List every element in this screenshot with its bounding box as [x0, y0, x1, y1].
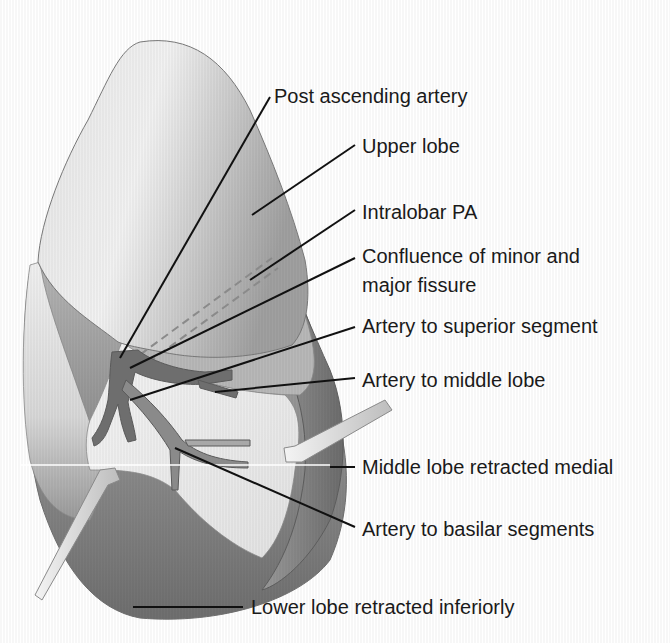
label-post-ascending-artery: Post ascending artery — [274, 84, 467, 109]
upper-lobe — [38, 41, 308, 358]
label-upper-lobe: Upper lobe — [362, 134, 460, 159]
label-artery-middle-lobe: Artery to middle lobe — [362, 368, 545, 393]
label-confluence-line2: major fissure — [362, 273, 476, 298]
label-lower-lobe-retracted: Lower lobe retracted inferiorly — [251, 595, 514, 620]
label-confluence-line1: Confluence of minor and — [362, 244, 580, 269]
label-artery-basilar-segments: Artery to basilar segments — [362, 517, 594, 542]
label-intralobar-pa: Intralobar PA — [362, 200, 477, 225]
label-middle-lobe-retracted: Middle lobe retracted medial — [362, 455, 613, 480]
label-artery-superior-segment: Artery to superior segment — [362, 314, 598, 339]
